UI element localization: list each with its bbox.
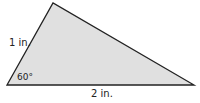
left-side-label: 1 in. (9, 38, 31, 48)
bottom-side-label: 2 in. (91, 89, 113, 99)
triangle (7, 3, 194, 85)
angle-label: 60° (17, 73, 33, 82)
